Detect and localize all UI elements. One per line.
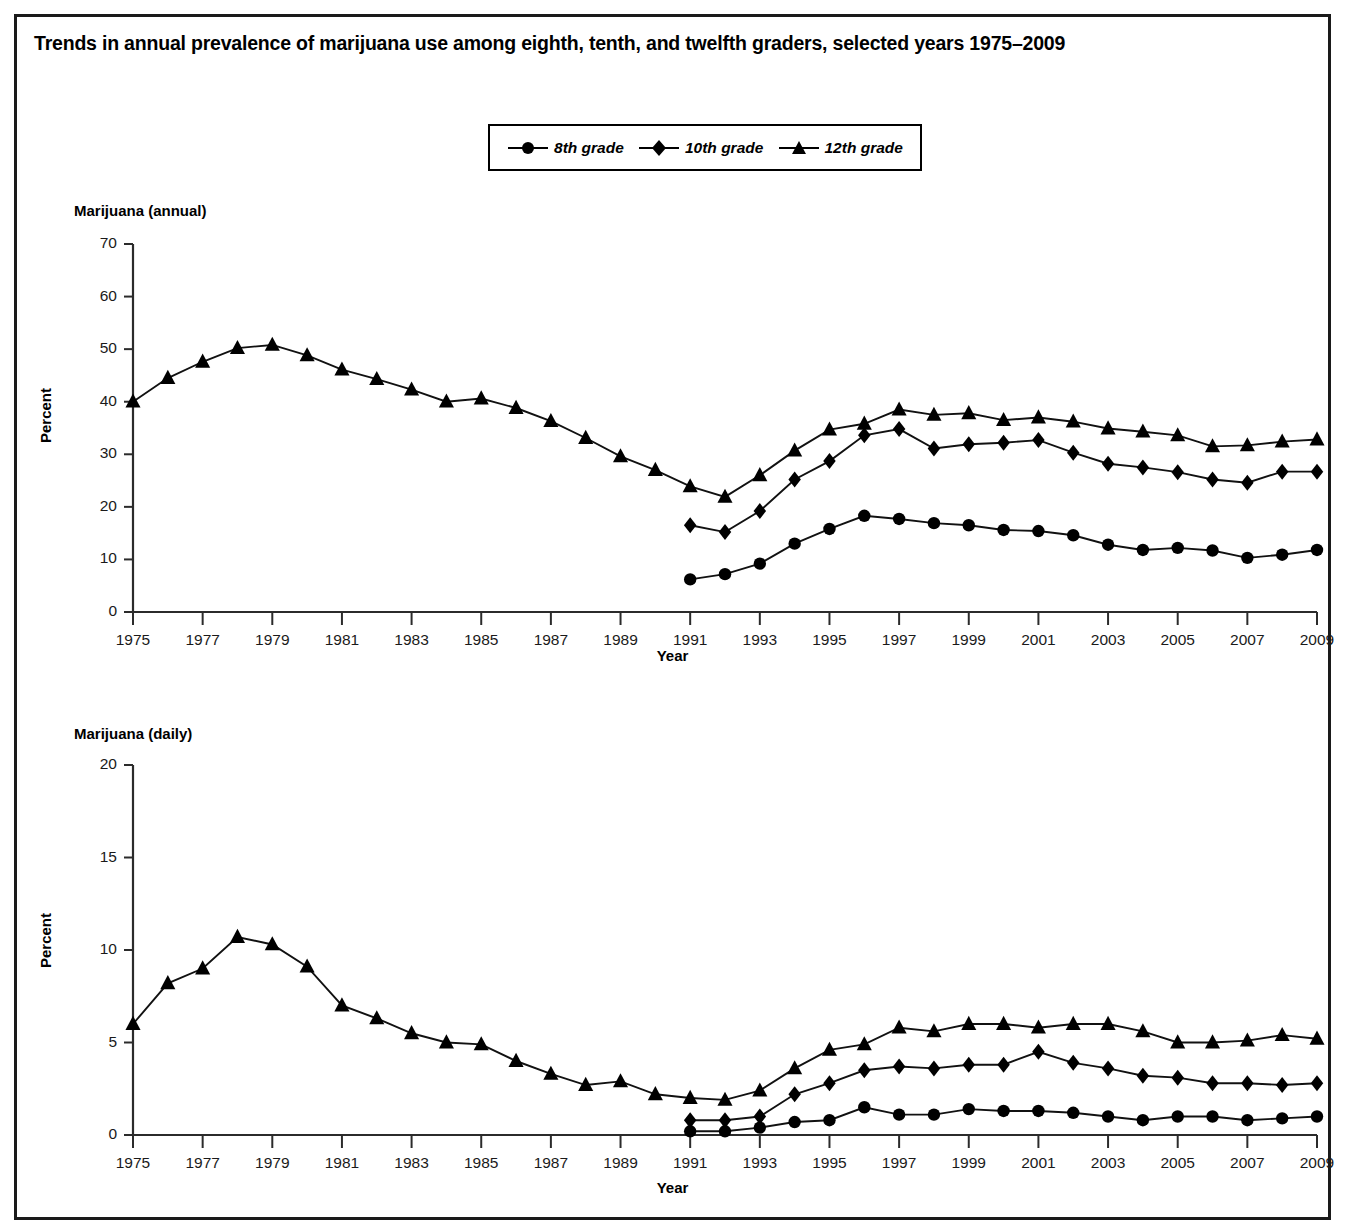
- x-tick-label: 2001: [1008, 1154, 1068, 1172]
- triangle-marker-icon: [787, 1060, 802, 1074]
- plot-svg: [17, 717, 1328, 1207]
- x-tick-label: 1995: [799, 1154, 859, 1172]
- circle-marker-icon: [997, 524, 1009, 536]
- x-axis-label: Year: [17, 1179, 1328, 1196]
- triangle-marker-icon: [892, 401, 907, 415]
- x-tick-label: 1991: [660, 631, 720, 649]
- diamond-marker-icon: [1032, 432, 1044, 448]
- x-tick-label: 1985: [451, 631, 511, 649]
- y-axis-label: Percent: [37, 376, 54, 456]
- x-tick-label: 2009: [1287, 631, 1345, 649]
- triangle-marker-icon: [160, 975, 175, 989]
- panel-title: Marijuana (daily): [74, 725, 192, 742]
- circle-marker-icon: [1102, 539, 1114, 551]
- diamond-marker-icon: [893, 421, 905, 437]
- circle-marker-icon: [1137, 544, 1149, 556]
- triangle-marker-icon: [474, 390, 489, 404]
- x-tick-label: 1987: [521, 1154, 581, 1172]
- circle-marker-icon: [1311, 544, 1323, 556]
- y-tick-label: 0: [71, 1125, 117, 1143]
- circle-marker-icon: [823, 1114, 835, 1126]
- diamond-marker-icon: [1206, 1075, 1218, 1091]
- triangle-marker-icon: [683, 478, 698, 492]
- diamond-marker-icon: [858, 427, 870, 443]
- circle-marker-icon: [1276, 548, 1288, 560]
- legend-item-8th-grade: 8th grade: [507, 139, 624, 157]
- x-tick-label: 1989: [591, 631, 651, 649]
- diamond-marker-icon: [997, 435, 1009, 451]
- x-tick-label: 2003: [1078, 1154, 1138, 1172]
- x-tick-label: 1981: [312, 631, 372, 649]
- diamond-marker-icon: [684, 1112, 696, 1128]
- triangle-marker-icon: [892, 1020, 907, 1034]
- triangle-marker-icon: [509, 1053, 524, 1067]
- legend-label: 12th grade: [825, 139, 903, 157]
- diamond-marker-icon: [963, 436, 975, 452]
- triangle-marker-icon: [857, 1036, 872, 1050]
- diamond-marker-icon: [858, 1062, 870, 1078]
- circle-marker-icon: [1032, 525, 1044, 537]
- diamond-marker-icon: [788, 1086, 800, 1102]
- x-tick-label: 1981: [312, 1154, 372, 1172]
- legend-label: 8th grade: [554, 139, 624, 157]
- diamond-marker-icon: [754, 1109, 766, 1125]
- x-tick-label: 1999: [939, 631, 999, 649]
- circle-marker-icon: [1241, 1114, 1253, 1126]
- diamond-marker-icon: [963, 1057, 975, 1073]
- diamond-marker-icon: [719, 1112, 731, 1128]
- circle-marker-icon: [684, 573, 696, 585]
- circle-marker-icon: [1067, 529, 1079, 541]
- diamond-marker-icon: [1067, 445, 1079, 461]
- circle-marker-icon: [1102, 1110, 1114, 1122]
- triangle-marker-icon: [961, 405, 976, 419]
- diamond-marker-icon: [928, 1060, 940, 1076]
- circle-marker-icon: [928, 517, 940, 529]
- triangle-marker-icon: [778, 139, 820, 157]
- y-axis-label: Percent: [37, 901, 54, 981]
- plot-area: [17, 192, 1328, 672]
- x-tick-label: 2009: [1287, 1154, 1345, 1172]
- triangle-marker-icon: [787, 442, 802, 456]
- circle-marker-icon: [997, 1105, 1009, 1117]
- triangle-marker-icon: [1309, 431, 1324, 445]
- circle-marker-icon: [719, 568, 731, 580]
- y-tick-label: 20: [71, 755, 117, 773]
- x-tick-label: 1993: [730, 1154, 790, 1172]
- diamond-marker-icon: [893, 1059, 905, 1075]
- y-tick-label: 60: [71, 287, 117, 305]
- x-tick-label: 1977: [173, 631, 233, 649]
- x-tick-label: 1997: [869, 631, 929, 649]
- x-tick-label: 1993: [730, 631, 790, 649]
- circle-marker-icon: [1276, 1112, 1288, 1124]
- circle-marker-icon: [963, 519, 975, 531]
- triangle-marker-icon: [125, 394, 140, 408]
- circle-marker-icon: [1067, 1107, 1079, 1119]
- x-tick-label: 1991: [660, 1154, 720, 1172]
- circle-marker-icon: [963, 1103, 975, 1115]
- y-tick-label: 5: [71, 1033, 117, 1051]
- x-tick-label: 1975: [103, 631, 163, 649]
- y-tick-label: 20: [71, 497, 117, 515]
- x-tick-label: 1999: [939, 1154, 999, 1172]
- circle-marker-icon: [1172, 542, 1184, 554]
- circle-marker-icon: [788, 537, 800, 549]
- circle-marker-icon: [507, 139, 549, 157]
- circle-marker-icon: [788, 1116, 800, 1128]
- x-tick-label: 1989: [591, 1154, 651, 1172]
- x-tick-label: 1985: [451, 1154, 511, 1172]
- y-tick-label: 0: [71, 602, 117, 620]
- circle-marker-icon: [754, 557, 766, 569]
- triangle-marker-icon: [160, 370, 175, 384]
- y-tick-label: 50: [71, 339, 117, 357]
- diamond-marker-icon: [1171, 464, 1183, 480]
- circle-marker-icon: [1137, 1114, 1149, 1126]
- plot-svg: [17, 192, 1328, 672]
- x-tick-label: 2001: [1008, 631, 1068, 649]
- diamond-marker-icon: [1137, 1068, 1149, 1084]
- x-tick-label: 1979: [242, 1154, 302, 1172]
- triangle-marker-icon: [195, 960, 210, 974]
- circle-marker-icon: [1172, 1110, 1184, 1122]
- triangle-marker-icon: [1275, 1027, 1290, 1041]
- circle-marker-icon: [1311, 1110, 1323, 1122]
- chart-panel-marijuana-annual: Marijuana (annual) Percent Year 01020304…: [17, 192, 1328, 672]
